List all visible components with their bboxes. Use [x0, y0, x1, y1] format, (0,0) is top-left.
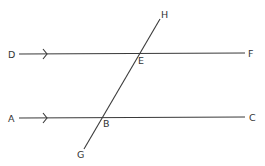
label-c: C: [249, 112, 256, 123]
label-a: A: [8, 113, 15, 124]
line-ac: [19, 113, 245, 123]
label-d: D: [8, 49, 15, 60]
line-df: [19, 49, 245, 59]
transversal-gh: [84, 19, 160, 149]
label-h: H: [161, 9, 168, 20]
parallel-lines-diagram: D E F A B C G H: [0, 0, 265, 166]
label-b: B: [103, 118, 110, 129]
label-e: E: [138, 55, 144, 66]
label-f: F: [248, 48, 253, 59]
label-g: G: [77, 149, 84, 160]
